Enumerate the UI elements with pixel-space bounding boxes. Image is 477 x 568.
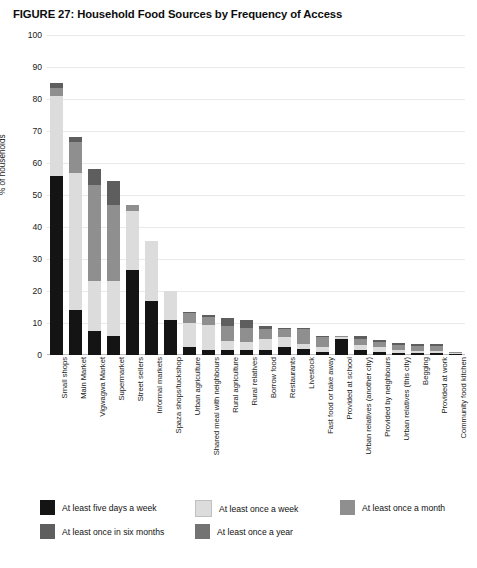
legend-label: At least five days a week — [62, 503, 157, 513]
bar-informal-markets[interactable] — [145, 241, 159, 355]
y-axis-tick: 10 — [32, 318, 42, 328]
bar-segment — [221, 350, 235, 355]
x-axis-label: Provided at work — [440, 357, 449, 414]
bar-segment — [145, 301, 159, 355]
bar-urban-relatives-another-city[interactable] — [354, 336, 368, 355]
bar-begging[interactable] — [411, 344, 425, 355]
bar-segment — [107, 336, 121, 355]
x-axis-label: Spaza shops/tuckshop — [174, 357, 183, 433]
y-axis-tick: 60 — [32, 158, 42, 168]
bar-rural-relatives[interactable] — [240, 320, 254, 355]
bar-livestock[interactable] — [297, 328, 311, 355]
legend-item[interactable]: At least once in six months — [40, 524, 164, 539]
bar-segment — [411, 353, 425, 355]
legend-label: At least once a year — [217, 527, 293, 537]
bar-restaurants[interactable] — [278, 328, 292, 355]
y-axis-tick: 70 — [32, 126, 42, 136]
x-axis-label: Small shops — [60, 357, 69, 398]
figure-title: FIGURE 27: Household Food Sources by Fre… — [13, 8, 463, 20]
bar-segment — [69, 173, 83, 311]
gridline — [47, 99, 465, 100]
legend-item[interactable]: At least once a week — [195, 500, 298, 517]
bar-segment — [278, 337, 292, 347]
bar-segment — [278, 347, 292, 355]
bar-rural-agriculture[interactable] — [221, 318, 235, 355]
chart-legend: At least five days a weekAt least once a… — [40, 500, 460, 548]
x-axis-label: Street sellers — [136, 357, 145, 401]
bar-segment — [373, 352, 387, 355]
figure-container: FIGURE 27: Household Food Sources by Fre… — [0, 0, 477, 568]
bar-segment — [50, 176, 64, 355]
legend-item[interactable]: At least once a year — [195, 524, 293, 539]
bar-small-shops[interactable] — [50, 83, 64, 355]
bar-shared-meal-with-neighbours[interactable] — [202, 315, 216, 355]
gridline — [47, 35, 465, 36]
bar-segment — [221, 341, 235, 351]
x-axis-label: Rural relatives — [250, 357, 259, 406]
bar-segment — [240, 350, 254, 355]
bar-segment — [297, 329, 311, 343]
bar-segment — [126, 270, 140, 355]
x-axis-label: Urban relatives (this city) — [402, 357, 411, 441]
bar-segment — [183, 347, 197, 355]
legend-swatch — [195, 500, 212, 517]
legend-label: At least once a month — [362, 503, 445, 513]
plot-area — [47, 35, 465, 355]
bar-provided-at-work[interactable] — [430, 344, 444, 355]
bar-segment — [259, 339, 273, 350]
y-axis-tick: 80 — [32, 94, 42, 104]
legend-label: At least once in six months — [62, 527, 164, 537]
x-axis-label: Provided at school — [345, 357, 354, 419]
bar-urban-agriculture[interactable] — [183, 312, 197, 355]
y-axis-tick: 100 — [28, 30, 42, 40]
bar-provided-at-school[interactable] — [335, 336, 349, 355]
x-axis-label: Informal markets — [155, 357, 164, 414]
bar-segment — [335, 339, 349, 355]
x-axis-label: Urban agriculture — [193, 357, 202, 415]
bar-segment — [392, 353, 406, 355]
bar-segment — [107, 281, 121, 335]
x-axis-label: Community food kitchen — [459, 357, 468, 438]
bar-vigwagwa-market[interactable] — [88, 169, 102, 355]
legend-swatch — [40, 500, 55, 515]
bar-segment — [183, 313, 197, 323]
bar-supermarket[interactable] — [107, 181, 121, 355]
x-axis-label: Restaurants — [288, 357, 297, 398]
legend-swatch — [340, 500, 355, 515]
bar-segment — [202, 325, 216, 351]
bar-segment — [88, 169, 102, 185]
legend-item[interactable]: At least once a month — [340, 500, 445, 515]
bar-borrow-food[interactable] — [259, 326, 273, 355]
bar-segment — [354, 350, 368, 355]
bar-fast-food-or-take-away[interactable] — [316, 336, 330, 355]
bar-segment — [145, 241, 159, 300]
bar-segment — [50, 88, 64, 96]
bar-segment — [430, 353, 444, 355]
legend-swatch — [40, 524, 55, 539]
x-axis-label: Livestock — [307, 357, 316, 389]
bar-street-sellers[interactable] — [126, 205, 140, 355]
bar-segment — [164, 320, 178, 355]
gridline — [47, 131, 465, 132]
bar-provided-by-neighbours[interactable] — [373, 340, 387, 355]
y-axis-tick: 30 — [32, 254, 42, 264]
bar-spaza-shops-tuckshop[interactable] — [164, 291, 178, 355]
bar-segment — [449, 354, 463, 355]
x-axis-label: Shared meal with neighbours — [212, 357, 221, 455]
bar-community-food-kitchen[interactable] — [449, 352, 463, 355]
x-axis-label: Borrow food — [269, 357, 278, 398]
legend-item[interactable]: At least five days a week — [40, 500, 157, 515]
bar-segment — [88, 185, 102, 281]
bar-segment — [316, 352, 330, 355]
bar-segment — [240, 342, 254, 350]
bar-segment — [259, 329, 273, 339]
bar-main-market[interactable] — [69, 137, 83, 355]
bar-segment — [50, 96, 64, 176]
y-axis-tick: 0 — [37, 350, 42, 360]
x-axis-label: Rural agriculture — [231, 357, 240, 413]
y-axis-tick: 50 — [32, 190, 42, 200]
y-axis-tick: 20 — [32, 286, 42, 296]
bar-urban-relatives-this-city[interactable] — [392, 343, 406, 355]
x-axis-label: Fast food or take away — [326, 357, 335, 434]
bar-segment — [183, 323, 197, 347]
